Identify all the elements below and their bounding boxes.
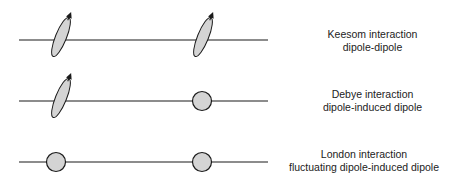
dipole-icon xyxy=(48,74,75,120)
debye-subtitle: dipole-induced dipole xyxy=(300,101,445,114)
debye-label: Debye interaction dipole-induced dipole xyxy=(300,88,445,114)
debye-row xyxy=(19,74,268,120)
keesom-row xyxy=(19,13,268,59)
dipole-icon xyxy=(48,13,75,59)
london-subtitle: fluctuating dipole-induced dipole xyxy=(278,161,450,174)
induced-dipole-icon xyxy=(193,153,212,172)
induced-dipole-icon xyxy=(47,153,66,172)
keesom-subtitle: dipole-dipole xyxy=(300,41,445,54)
induced-dipole-icon xyxy=(193,92,212,111)
dipole-icon xyxy=(190,13,217,59)
debye-title: Debye interaction xyxy=(300,88,445,101)
london-title: London interaction xyxy=(278,148,450,161)
keesom-title: Keesom interaction xyxy=(300,28,445,41)
london-row xyxy=(19,153,268,172)
keesom-label: Keesom interaction dipole-dipole xyxy=(300,28,445,54)
london-label: London interaction fluctuating dipole-in… xyxy=(278,148,450,174)
